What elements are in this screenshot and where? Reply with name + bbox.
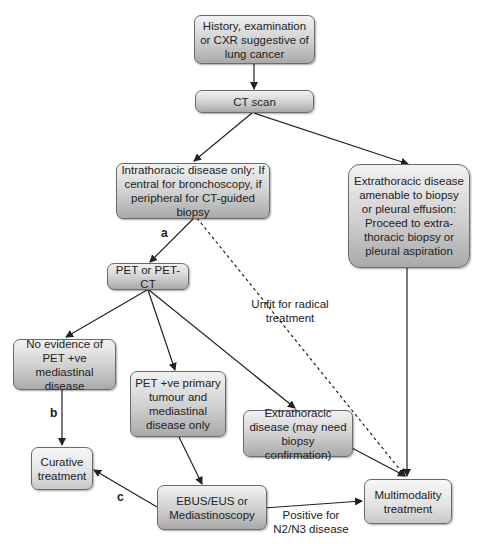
node-multimodality-text: Multimodality treatment bbox=[369, 488, 447, 516]
arrow-intrathoracic-to-pet bbox=[150, 218, 194, 262]
arrow-pet-to-no-evidence bbox=[66, 290, 147, 337]
arrow-ct-to-intrathoracic bbox=[194, 113, 252, 161]
edge-label-unfit: Unfit for radical treatment bbox=[240, 297, 340, 325]
node-pet-text: PET or PET-CT bbox=[112, 263, 184, 291]
node-curative-text: Curative treatment bbox=[36, 455, 88, 483]
node-extrathoracic-confirm-text: Extrathoracic disease (may need biopsy c… bbox=[248, 406, 348, 462]
lung-cancer-pathway-flowchart: History, examination or CXR suggestive o… bbox=[0, 0, 479, 544]
node-history: History, examination or CXR suggestive o… bbox=[194, 15, 315, 64]
node-ct-scan-text: CT scan bbox=[233, 95, 276, 109]
node-extrathoracic-confirm: Extrathoracic disease (may need biopsy c… bbox=[243, 410, 353, 457]
node-curative: Curative treatment bbox=[31, 447, 93, 490]
node-history-text: History, examination or CXR suggestive o… bbox=[199, 19, 310, 61]
node-no-evidence-text: No evidence of PET +ve mediastinal disea… bbox=[18, 337, 111, 393]
arrow-ebus-to-curative bbox=[94, 470, 157, 507]
node-no-evidence: No evidence of PET +ve mediastinal disea… bbox=[13, 339, 116, 390]
edge-label-a: a bbox=[161, 226, 168, 240]
node-pet-positive: PET +ve primary tumour and mediastinal d… bbox=[130, 371, 226, 437]
node-multimodality: Multimodality treatment bbox=[364, 479, 452, 524]
edge-label-c: c bbox=[117, 490, 124, 504]
arrow-pet-to-pet-positive bbox=[148, 290, 175, 370]
node-ebus: EBUS/EUS or Mediastinoscopy bbox=[157, 485, 267, 530]
node-pet: PET or PET-CT bbox=[107, 263, 189, 290]
node-ct-scan: CT scan bbox=[195, 90, 314, 113]
arrow-ebus-to-multimodality bbox=[264, 501, 362, 508]
node-intrathoracic-text: Intrathoracic disease only: If central f… bbox=[121, 163, 265, 219]
edge-label-positive-n2n3: Positive for N2/N3 disease bbox=[270, 508, 352, 536]
node-pet-positive-text: PET +ve primary tumour and mediastinal d… bbox=[135, 376, 221, 432]
node-intrathoracic: Intrathoracic disease only: If central f… bbox=[116, 163, 270, 219]
edge-label-b: b bbox=[50, 406, 57, 420]
arrow-ct-to-extrathoracic bbox=[254, 113, 408, 164]
node-extrathoracic-biopsy: Extrathoracic disease amenable to biopsy… bbox=[348, 164, 470, 268]
node-ebus-text: EBUS/EUS or Mediastinoscopy bbox=[162, 494, 262, 522]
node-extrathoracic-biopsy-text: Extrathoracic disease amenable to biopsy… bbox=[353, 174, 465, 258]
arrow-pet-positive-to-ebus bbox=[179, 437, 202, 484]
arrow-extrathoracic-confirm-to-multimodality bbox=[352, 448, 405, 476]
